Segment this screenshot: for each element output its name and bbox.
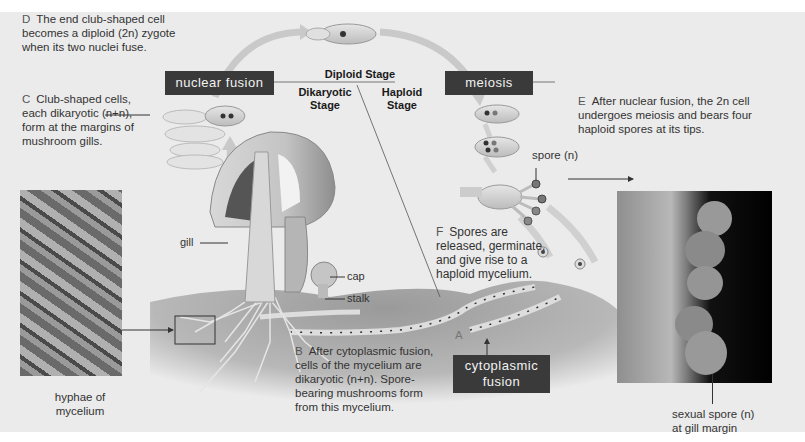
spore-photo <box>617 191 772 383</box>
nuclear-fusion-box: nuclear fusion <box>165 71 274 95</box>
hyphae-photo <box>20 190 122 376</box>
caption-b: BAfter cytoplasmic fusion, cells of the … <box>295 344 455 414</box>
meiosis-box: meiosis <box>445 71 533 95</box>
stalk-label: stalk <box>347 292 370 304</box>
caption-e: EAfter nuclear fusion, the 2n cell under… <box>578 94 798 136</box>
spore-leader <box>712 374 713 404</box>
caption-d: DThe end club-shaped cell becomes a dipl… <box>22 12 242 54</box>
caption-c: CClub-shaped cells, each dikaryotic (n+n… <box>22 92 172 148</box>
spore-label: spore (n) <box>532 149 578 161</box>
dikaryotic-stage-label: Dikaryotic Stage <box>290 86 360 112</box>
caption-a: A <box>455 328 463 342</box>
gill-label: gill <box>180 236 193 248</box>
haploid-stage-label: Haploid Stage <box>372 86 432 112</box>
caption-f: FSpores are released, germinate, and giv… <box>436 225 566 281</box>
cytoplasmic-fusion-box: cytoplasmic fusion <box>453 355 550 393</box>
diploid-stage-label: Diploid Stage <box>310 68 410 81</box>
hyphae-caption: hyphae of mycelium <box>45 390 115 418</box>
diagram-panel: nuclear fusion meiosis cytoplasmic fusio… <box>0 12 805 432</box>
cap-label: cap <box>347 270 365 282</box>
spore-photo-caption: sexual spore (n) at gill margin <box>672 407 792 435</box>
